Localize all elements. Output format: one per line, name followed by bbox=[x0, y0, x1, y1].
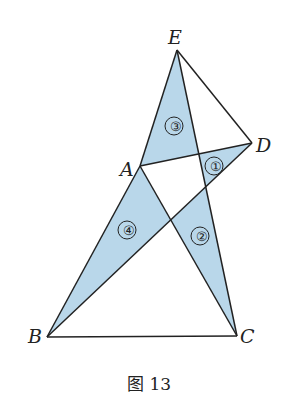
segment-BC bbox=[47, 336, 237, 337]
region-1-label: ① bbox=[210, 159, 222, 174]
figure-caption: 图 13 bbox=[127, 374, 171, 394]
geometry-figure: E D A B C ① ② ③ ④ 图 13 bbox=[0, 0, 301, 399]
segment-AC bbox=[140, 166, 237, 336]
region-4 bbox=[47, 166, 171, 337]
label-A: A bbox=[118, 158, 134, 180]
label-D: D bbox=[255, 134, 271, 156]
label-B: B bbox=[27, 325, 42, 347]
region-2 bbox=[171, 187, 237, 336]
segment-EC bbox=[177, 50, 237, 336]
region-3-label: ③ bbox=[170, 119, 182, 134]
region-2-label: ② bbox=[196, 229, 208, 244]
region-4-label: ④ bbox=[123, 223, 135, 238]
label-C: C bbox=[240, 325, 255, 347]
label-E: E bbox=[167, 26, 182, 48]
figure-canvas: E D A B C ① ② ③ ④ 图 13 bbox=[0, 0, 301, 399]
region-3 bbox=[140, 50, 199, 166]
